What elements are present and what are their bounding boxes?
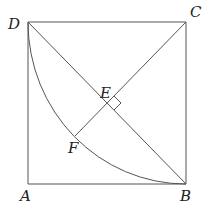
label-d: D bbox=[7, 15, 20, 33]
segment-cf bbox=[75, 22, 186, 136]
label-f: F bbox=[67, 139, 79, 157]
label-a: A bbox=[18, 187, 31, 205]
right-angle-mark bbox=[114, 96, 121, 110]
label-b: B bbox=[179, 187, 191, 205]
label-c: C bbox=[190, 3, 202, 21]
geometry-diagram: D C A B E F bbox=[0, 0, 208, 209]
label-e: E bbox=[99, 84, 111, 102]
